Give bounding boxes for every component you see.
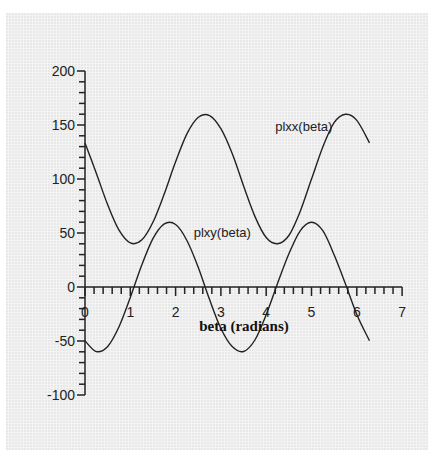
y-tick-label: 100 bbox=[52, 171, 76, 187]
x-axis-title: beta (radians) bbox=[199, 318, 289, 335]
y-tick-label: -50 bbox=[55, 333, 75, 349]
y-axis: -100-50050100150200 bbox=[47, 63, 85, 403]
y-tick-label: 0 bbox=[67, 279, 75, 295]
x-tick-label: 2 bbox=[172, 304, 180, 320]
y-tick-label: 150 bbox=[52, 117, 76, 133]
x-tick-label: 0 bbox=[81, 304, 89, 320]
x-tick-label: 5 bbox=[308, 304, 316, 320]
x-tick-label: 7 bbox=[398, 304, 406, 320]
curve-label-plxy-beta: plxy(beta) bbox=[194, 225, 251, 240]
line-chart: -100-50050100150200 01234567 plxx(beta)p… bbox=[0, 0, 438, 473]
curve-label-plxx-beta: plxx(beta) bbox=[275, 119, 332, 134]
y-tick-label: -100 bbox=[47, 387, 75, 403]
y-tick-label: 50 bbox=[59, 225, 75, 241]
y-tick-label: 200 bbox=[52, 63, 76, 79]
